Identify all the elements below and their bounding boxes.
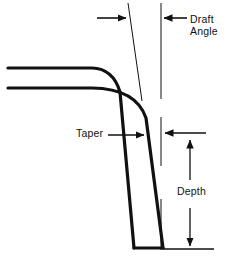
- depth-label: Depth: [177, 186, 206, 198]
- diagram-canvas: Draft Angle Taper Depth: [0, 0, 228, 261]
- draft-angle-label: Draft Angle: [190, 14, 218, 37]
- part-inner-wall-line: [8, 88, 163, 248]
- draft-reference-line: [128, 3, 142, 101]
- part-outer-wall-line: [8, 68, 134, 248]
- taper-label: Taper: [76, 128, 103, 140]
- diagram-svg: [0, 0, 228, 261]
